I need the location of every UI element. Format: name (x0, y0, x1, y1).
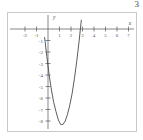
figure-number-label: 3 (135, 0, 140, 9)
plot-frame (7, 12, 137, 132)
graph-figure: 3 -2 -1 1 2 3 4 5 6 7 (0, 0, 143, 140)
